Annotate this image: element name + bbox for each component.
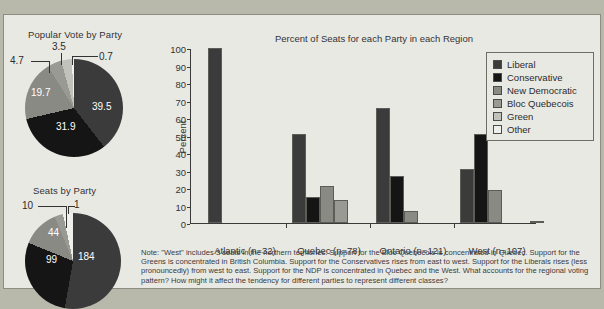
plot-area: Percent 0 10 20 30 40 50 60 70 80 90 100 [190, 49, 528, 224]
leader-line-other-tick [72, 56, 73, 65]
y-ticklabel: 90 [164, 61, 186, 72]
bloc-quebecois-swatch-icon [493, 99, 502, 108]
x-tickmark [370, 224, 371, 228]
seats-slice-label-bloc-quebecois: 10 [22, 200, 33, 211]
y-ticklabel: 0 [164, 219, 186, 230]
popular-vote-slice-label-bloc-quebecois: 4.7 [10, 55, 24, 66]
y-ticklabel: 80 [164, 79, 186, 90]
seats-leader-line-other-tick [68, 206, 69, 214]
seats-slice-label-conservative: 99 [46, 254, 57, 265]
y-ticklabel: 60 [164, 114, 186, 125]
bar-chart-title: Percent of Seats for each Party in each … [209, 33, 539, 44]
legend-item-other: Other [493, 123, 587, 136]
new-democratic-swatch-icon [493, 86, 502, 95]
conservative-swatch-icon [493, 73, 502, 82]
legend-item-bloc-quebecois: Bloc Quebecois [493, 97, 587, 110]
bar-atlantic-liberal [208, 48, 222, 223]
bar-ontario-conservative [390, 176, 404, 223]
y-tickmark [187, 137, 190, 138]
bar-west-other [530, 221, 544, 223]
legend-item-liberal: Liberal [493, 58, 587, 71]
y-tickmark [187, 49, 190, 50]
y-ticklabel: 20 [164, 184, 186, 195]
bar-quebec-conservative [306, 197, 320, 223]
x-tickmark [286, 224, 287, 228]
y-tickmark [187, 154, 190, 155]
y-tickmark [187, 67, 190, 68]
popular-vote-slice-label-liberal: 39.5 [92, 101, 111, 112]
x-tickmark [454, 224, 455, 228]
y-ticklabel: 30 [164, 166, 186, 177]
popular-vote-slice-label-green: 3.5 [52, 41, 66, 52]
bar-west-new-democratic [488, 190, 502, 223]
legend-label: Liberal [507, 59, 536, 70]
leader-line-other [72, 56, 98, 57]
y-tickmark [187, 102, 190, 103]
popular-vote-slice-label-conservative: 31.9 [56, 121, 75, 132]
y-tickmark [187, 207, 190, 208]
y-tickmark [187, 172, 190, 173]
seats-leader-line-bloc-tick [66, 206, 67, 228]
y-tickmark [187, 119, 190, 120]
bar-group-quebec [290, 49, 368, 223]
y-ticklabel: 40 [164, 149, 186, 160]
figure-note: Note: "West" includes 3 seats in the nor… [141, 248, 593, 285]
y-tickmark [187, 84, 190, 85]
seats-leader-line-other [68, 206, 75, 207]
legend-label: New Democratic [507, 85, 577, 96]
legend-item-conservative: Conservative [493, 71, 587, 84]
y-tickmark [187, 189, 190, 190]
seats-leader-line-bloc [38, 206, 66, 207]
bar-quebec-bloc-quebecois [334, 200, 348, 223]
legend-label: Bloc Quebecois [507, 98, 574, 109]
legend-label: Other [507, 124, 531, 135]
y-axis [190, 49, 191, 224]
bar-ontario-liberal [376, 108, 390, 224]
bar-group-atlantic [206, 49, 284, 223]
legend-label: Green [507, 111, 533, 122]
popular-vote-pie-title: Popular Vote by Party [28, 29, 122, 40]
bar-ontario-new-democratic [404, 211, 418, 223]
y-ticklabel: 10 [164, 201, 186, 212]
legend: Liberal Conservative New Democratic Bloc… [486, 52, 594, 141]
other-swatch-icon [493, 125, 502, 134]
seats-pie-title: Seats by Party [33, 185, 96, 196]
bar-west-liberal [460, 169, 474, 223]
popular-vote-slice-label-new-democratic: 19.7 [31, 87, 50, 98]
x-axis [190, 223, 536, 224]
seats-slice-label-other: 1 [74, 199, 80, 210]
seats-pie [25, 213, 121, 309]
leader-line-green [61, 53, 62, 65]
y-tickmark [187, 224, 190, 225]
bar-group-ontario [374, 49, 452, 223]
y-ticklabel: 70 [164, 96, 186, 107]
popular-vote-slice-label-other: 0.7 [99, 51, 113, 62]
figure-panel: Popular Vote by Party 39.5 31.9 19.7 4.7… [3, 14, 601, 289]
bar-quebec-new-democratic [320, 186, 334, 223]
legend-label: Conservative [507, 72, 562, 83]
y-ticklabel: 100 [164, 44, 186, 55]
seats-slice-label-liberal: 184 [78, 251, 95, 262]
leader-line-bloc-tick [49, 61, 50, 73]
legend-item-new-democratic: New Democratic [493, 84, 587, 97]
bar-west-conservative [474, 134, 488, 223]
bar-quebec-liberal [292, 134, 306, 223]
leader-line-bloc [31, 61, 49, 62]
legend-item-green: Green [493, 110, 587, 123]
green-swatch-icon [493, 112, 502, 121]
y-ticklabel: 50 [164, 131, 186, 142]
seats-slice-label-new-democratic: 44 [48, 227, 59, 238]
liberal-swatch-icon [493, 60, 502, 69]
